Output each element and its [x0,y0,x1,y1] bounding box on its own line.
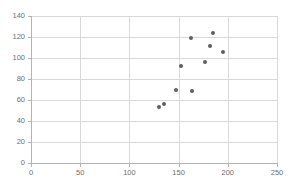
gridline-horizontal [31,142,277,143]
scatter-chart: 020406080100120140050100150200250 [0,0,293,196]
y-tick-mark [28,121,31,122]
gridline-horizontal [31,16,277,17]
plot-area [31,16,277,163]
y-tick-mark [28,142,31,143]
x-tick-mark [80,164,81,167]
y-tick-label: 80 [0,75,25,83]
gridline-vertical [179,16,180,163]
x-tick-mark [31,164,32,167]
scatter-point [157,105,161,109]
scatter-point [190,89,194,93]
x-tick-label: 150 [164,169,194,177]
gridline-vertical [277,16,278,163]
y-tick-label: 0 [0,159,25,167]
scatter-point [162,102,166,106]
y-tick-label: 60 [0,96,25,104]
y-axis-line [31,16,32,164]
y-tick-mark [28,37,31,38]
scatter-point [179,64,183,68]
x-tick-label: 50 [65,169,95,177]
gridline-horizontal [31,100,277,101]
x-tick-mark [129,164,130,167]
scatter-point [203,60,207,64]
x-tick-label: 100 [114,169,144,177]
gridline-horizontal [31,58,277,59]
x-axis-line [31,163,278,164]
gridline-vertical [228,16,229,163]
x-tick-mark [179,164,180,167]
x-tick-label: 250 [262,169,292,177]
x-tick-label: 0 [16,169,46,177]
y-tick-mark [28,100,31,101]
gridline-vertical [129,16,130,163]
scatter-point [221,50,225,54]
y-tick-mark [28,16,31,17]
y-tick-label: 20 [0,138,25,146]
y-tick-label: 40 [0,117,25,125]
x-tick-label: 200 [213,169,243,177]
gridline-horizontal [31,79,277,80]
y-tick-label: 100 [0,54,25,62]
y-tick-label: 120 [0,33,25,41]
scatter-point [189,36,193,40]
y-tick-mark [28,58,31,59]
y-tick-mark [28,79,31,80]
scatter-point [211,31,215,35]
scatter-point [174,88,178,92]
scatter-point [208,44,212,48]
y-tick-label: 140 [0,12,25,20]
gridline-horizontal [31,37,277,38]
gridline-vertical [80,16,81,163]
x-tick-mark [228,164,229,167]
x-tick-mark [277,164,278,167]
gridline-horizontal [31,121,277,122]
